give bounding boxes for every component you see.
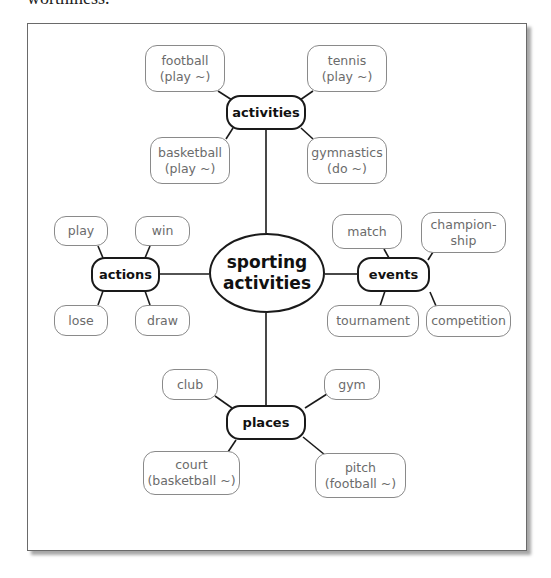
leaf-label: tournament (336, 313, 410, 329)
leaf-sublabel: (play ~) (165, 161, 216, 177)
leaf-label: club (177, 377, 203, 393)
leaf-sublabel: ship (451, 233, 477, 249)
hub-label: places (243, 415, 290, 430)
central-topic-line2: activities (223, 273, 311, 294)
leaf-label: pitch (345, 460, 376, 476)
hub-label: activities (232, 105, 299, 120)
leaf-label: competition (431, 313, 506, 329)
leaf-sublabel: (football ~) (325, 476, 396, 492)
leaf-sublabel: (play ~) (322, 69, 373, 85)
leaf-lose: lose (54, 305, 108, 336)
leaf-football: football (play ~) (145, 45, 225, 92)
leaf-sublabel: (do ~) (327, 161, 367, 177)
leaf-championship: champion- ship (421, 212, 506, 253)
leaf-label: draw (147, 313, 178, 329)
leaf-tournament: tournament (327, 305, 419, 337)
leaf-competition: competition (426, 305, 511, 337)
leaf-play: play (54, 216, 108, 246)
leaf-label: win (152, 223, 174, 239)
leaf-draw: draw (135, 305, 190, 336)
leaf-label: champion- (430, 217, 496, 233)
hub-events: events (357, 257, 430, 292)
leaf-tennis: tennis (play ~) (307, 45, 387, 92)
hub-label: actions (99, 267, 152, 282)
leaf-match: match (332, 214, 402, 249)
leaf-gym: gym (324, 369, 380, 400)
leaf-pitch: pitch (football ~) (315, 453, 406, 498)
hub-places: places (226, 405, 306, 440)
leaf-label: play (68, 223, 94, 239)
leaf-basketball: basketball (play ~) (150, 137, 230, 184)
leaf-court: court (basketball ~) (143, 451, 240, 495)
central-topic-line1: sporting (227, 252, 308, 273)
leaf-sublabel: (play ~) (160, 69, 211, 85)
leaf-label: tennis (328, 53, 366, 69)
leaf-label: court (175, 457, 207, 473)
hub-activities: activities (226, 95, 306, 130)
leaf-label: match (347, 224, 387, 240)
leaf-label: football (161, 53, 208, 69)
leaf-sublabel: (basketball ~) (147, 473, 235, 489)
hub-label: events (369, 267, 418, 282)
leaf-label: lose (68, 313, 93, 329)
leaf-label: gym (338, 377, 366, 393)
central-topic-node: sporting activities (209, 233, 325, 313)
leaf-club: club (162, 369, 218, 400)
leaf-win: win (135, 216, 190, 246)
hub-actions: actions (91, 257, 160, 292)
leaf-label: gymnastics (311, 145, 382, 161)
leaf-gymnastics: gymnastics (do ~) (307, 137, 387, 184)
leaf-label: basketball (158, 145, 222, 161)
